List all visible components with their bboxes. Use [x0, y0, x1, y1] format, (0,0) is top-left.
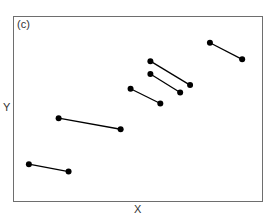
data-point [157, 100, 163, 106]
chart: (c) X Y [0, 0, 268, 216]
data-segment [26, 161, 72, 174]
data-point [187, 82, 193, 88]
data-segment [56, 115, 124, 132]
data-point [207, 40, 213, 46]
data-point [128, 86, 134, 92]
segment-line [150, 61, 190, 85]
segment-line [210, 43, 242, 60]
data-point [147, 58, 153, 64]
plot-area [0, 0, 268, 216]
data-segment [207, 40, 245, 63]
data-point [66, 169, 72, 175]
data-point [56, 115, 62, 121]
data-point [118, 126, 124, 132]
data-segment [128, 86, 164, 107]
data-point [26, 161, 32, 167]
segment-line [29, 164, 69, 171]
data-segment [147, 58, 193, 88]
segment-line [131, 89, 161, 104]
data-point [177, 89, 183, 95]
data-point [239, 56, 245, 62]
data-point [147, 71, 153, 77]
data-segment [147, 71, 183, 95]
segment-line [59, 118, 121, 129]
